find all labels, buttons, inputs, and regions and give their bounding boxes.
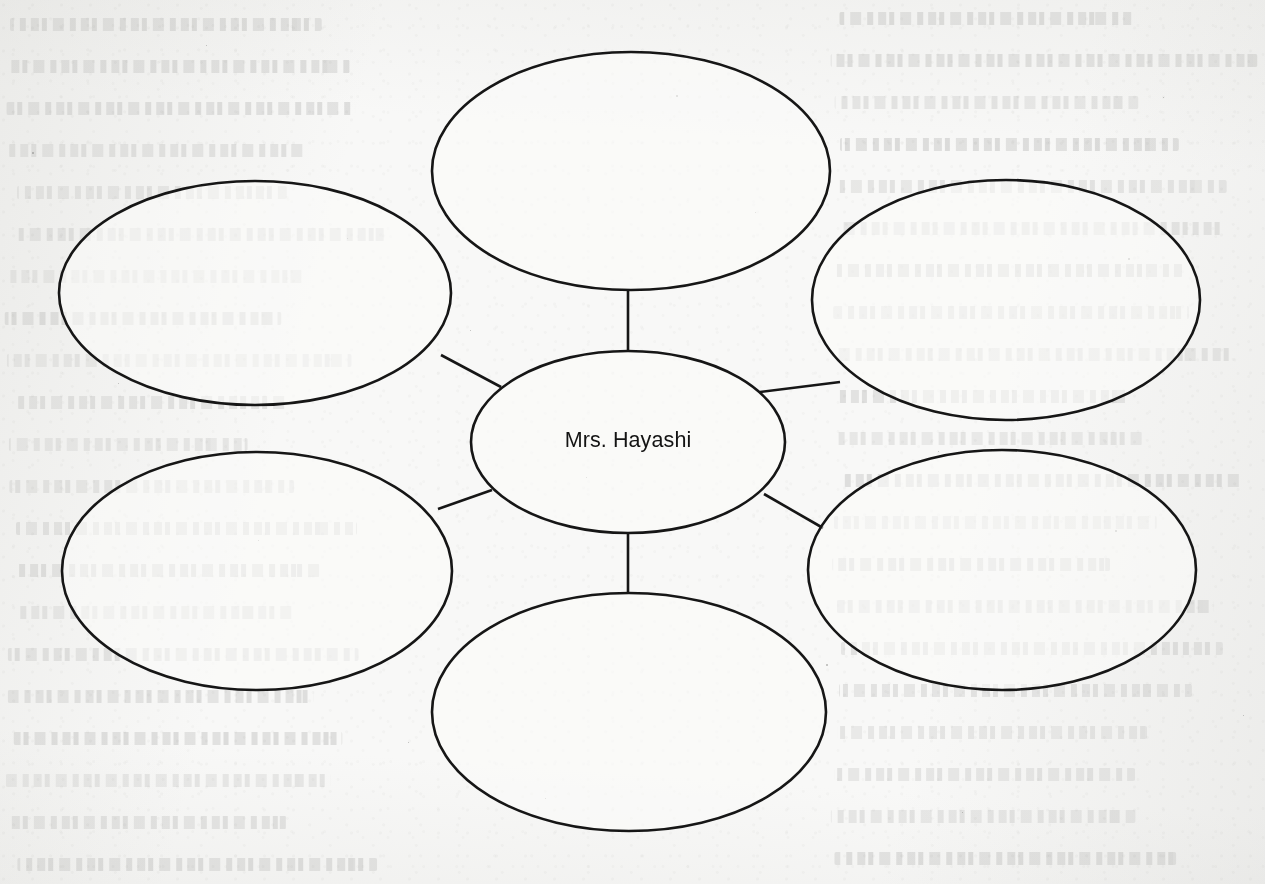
center-bubble-label: Mrs. Hayashi	[565, 428, 692, 452]
bubble-top-center-outline[interactable]	[432, 52, 830, 290]
connector-bottom-right	[764, 494, 823, 528]
bubble-top-left-outline[interactable]	[59, 181, 451, 405]
center-bubble-group[interactable]: Mrs. Hayashi	[471, 351, 785, 533]
bubble-bottom-center-outline[interactable]	[432, 593, 826, 831]
connector-top-left	[441, 355, 501, 387]
connector-top-right	[760, 382, 840, 392]
connector-bottom-left	[438, 490, 492, 509]
bubble-bottom-left-outline[interactable]	[62, 452, 452, 690]
bubble-map-diagram: Mrs. Hayashi	[0, 0, 1265, 884]
bubble-bottom-right-outline[interactable]	[808, 450, 1196, 690]
worksheet-page: Mrs. Hayashi	[0, 0, 1265, 884]
bubble-top-right-outline[interactable]	[812, 180, 1200, 420]
